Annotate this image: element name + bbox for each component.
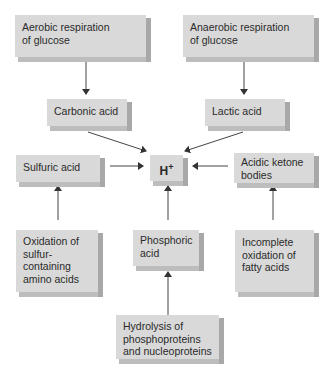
node-label: Oxidation of sulfur- containing amino ac… — [23, 235, 91, 285]
node-label: Incomplete oxidation of fatty acids — [242, 236, 307, 274]
node-label: Aerobic respiration of glucose — [22, 21, 139, 46]
node-acidic-ketone-bodies: Acidic ketone bodies — [234, 153, 314, 183]
node-aerobic-respiration: Aerobic respiration of glucose — [15, 15, 146, 57]
node-label: Hydrolysis of phosphoproteins and nucleo… — [123, 320, 212, 358]
node-anaerobic-respiration: Anaerobic respiration of glucose — [183, 15, 314, 57]
superscript-plus: + — [168, 162, 173, 172]
node-sulfuric-acid: Sulfuric acid — [16, 155, 100, 182]
node-hydrolysis: Hydrolysis of phosphoproteins and nucleo… — [116, 315, 219, 359]
node-label: Phosphoric acid — [140, 234, 192, 259]
node-label: Anaerobic respiration of glucose — [190, 21, 307, 46]
node-hydrogen-ion: H+ — [150, 155, 183, 181]
node-label: Carbonic acid — [54, 105, 120, 118]
node-incomplete-oxidation-fatty-acids: Incomplete oxidation of fatty acids — [235, 230, 314, 292]
node-carbonic-acid: Carbonic acid — [47, 99, 127, 126]
node-oxidation-sulfur-amino-acids: Oxidation of sulfur- containing amino ac… — [16, 230, 98, 292]
node-label: Lactic acid — [212, 105, 278, 118]
node-label: Acidic ketone bodies — [241, 156, 307, 181]
node-label: H — [160, 164, 169, 178]
node-label: Sulfuric acid — [23, 161, 93, 174]
arrow-carbonic-to-h — [88, 132, 146, 151]
arrow-lactic-to-h — [185, 132, 243, 151]
node-phosphoric-acid: Phosphoric acid — [133, 230, 199, 266]
node-lactic-acid: Lactic acid — [205, 99, 285, 126]
